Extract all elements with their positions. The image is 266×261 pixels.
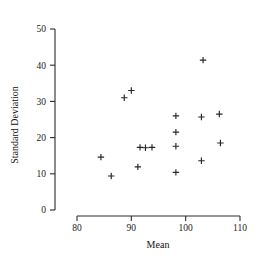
x-tick-label: 80	[72, 223, 82, 233]
data-point-marker	[198, 158, 204, 164]
y-axis: 01020304050	[37, 24, 56, 215]
data-point-marker	[142, 145, 148, 151]
y-tick-label: 40	[37, 61, 47, 71]
data-point-marker	[128, 87, 134, 93]
x-tick-label: 110	[233, 223, 247, 233]
data-point-marker	[216, 111, 222, 117]
x-axis: 8090100110	[72, 216, 247, 233]
data-point-marker	[108, 173, 114, 179]
y-tick-label: 30	[37, 97, 47, 107]
x-tick-label: 90	[127, 223, 137, 233]
data-point-marker	[135, 164, 141, 170]
scatter-plot-figure: 01020304050 8090100110 Standard Deviatio…	[0, 0, 266, 261]
y-axis-title: Standard Deviation	[9, 86, 20, 163]
data-point-marker	[217, 140, 223, 146]
data-points	[98, 57, 224, 179]
y-tick-label: 0	[41, 205, 46, 215]
data-point-marker	[149, 144, 155, 150]
data-point-marker	[173, 113, 179, 119]
y-tick-label: 50	[37, 24, 47, 34]
data-point-marker	[173, 169, 179, 175]
data-point-marker	[121, 95, 127, 101]
plot-canvas: 01020304050 8090100110 Standard Deviatio…	[0, 0, 266, 261]
y-tick-label: 10	[37, 169, 47, 179]
data-point-marker	[198, 114, 204, 120]
data-point-marker	[98, 154, 104, 160]
data-point-marker	[200, 57, 206, 63]
x-tick-label: 100	[179, 223, 194, 233]
data-point-marker	[173, 143, 179, 149]
y-tick-label: 20	[37, 133, 47, 143]
data-point-marker	[173, 129, 179, 135]
x-axis-title: Mean	[147, 239, 170, 250]
